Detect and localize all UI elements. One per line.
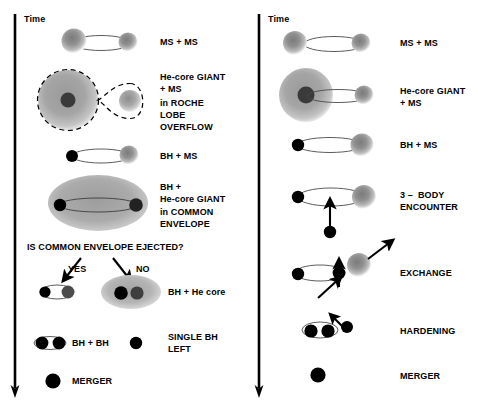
stage-ms-ms-right — [283, 31, 371, 55]
branch-label-no: NO — [136, 264, 150, 276]
time-arrow-right — [255, 14, 264, 398]
binary-black-hole-formation-figure: Time MS + MS He-core GIANT + MS in ROCHE… — [0, 0, 478, 408]
stage-label-merger-left: MERGER — [72, 376, 112, 388]
branch-label-yes: YES — [68, 264, 86, 276]
stage-three-body-encounter — [292, 185, 376, 238]
stage-merger-left — [45, 373, 60, 388]
stage-common-envelope — [48, 175, 148, 231]
stage-label-bh-ms-right: BH + MS — [400, 140, 437, 152]
stage-bh-ms-left — [66, 146, 139, 165]
stage-merger-right — [310, 367, 325, 382]
time-axis-label-left: Time — [24, 14, 45, 26]
stage-bh-he-core-envelope-no — [101, 275, 161, 309]
stage-roche-lobe-overflow — [38, 70, 143, 131]
stage-bh-ms-right — [292, 134, 374, 157]
stage-label-ms-ms-left: MS + MS — [160, 37, 198, 49]
stage-label-ms-ms-right: MS + MS — [400, 38, 438, 50]
stage-label-merger-right: MERGER — [400, 371, 440, 383]
stage-label-bh-he-core: BH + He core — [168, 287, 225, 299]
stage-ms-ms-left — [62, 29, 138, 54]
stage-label-hardening: HARDENING — [400, 326, 455, 338]
stage-label-exchange: EXCHANGE — [400, 268, 452, 280]
stage-bh-bh — [34, 337, 66, 350]
stage-label-bh-ms-left: BH + MS — [160, 151, 197, 163]
stage-bh-he-core-binary-yes — [39, 285, 74, 299]
panel-dynamical-cluster-formation — [255, 14, 393, 398]
stage-he-core-giant-ms-right — [279, 68, 374, 122]
stage-label-bh-bh: BH + BH — [72, 338, 109, 350]
time-arrow-left — [11, 14, 20, 398]
common-envelope-question-label: IS COMMON ENVELOPE EJECTED? — [27, 242, 184, 254]
time-axis-label-right: Time — [268, 14, 289, 26]
stage-single-bh-left — [130, 337, 142, 349]
stage-hardening — [302, 314, 353, 338]
stage-exchange — [292, 240, 393, 298]
